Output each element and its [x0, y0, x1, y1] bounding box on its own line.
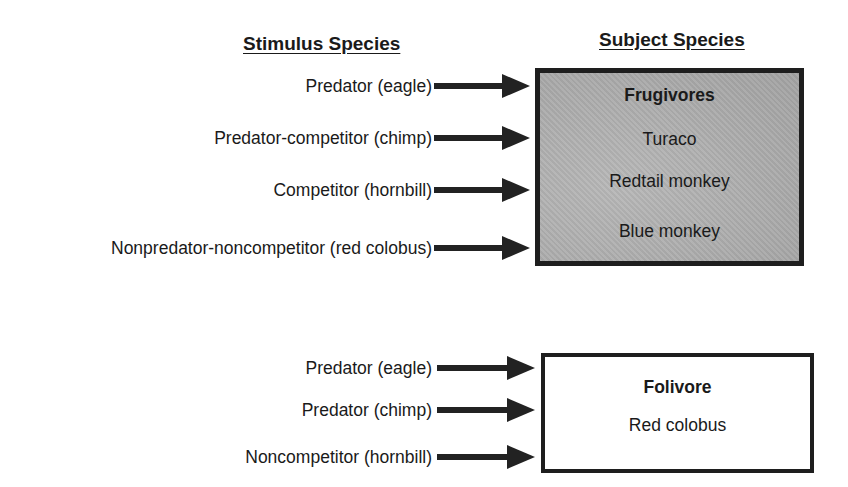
subject-species-item: Red colobus [545, 415, 810, 436]
stimulus-label: Predator (eagle) [306, 76, 432, 97]
arrow-icon [437, 445, 535, 469]
arrow-icon [434, 236, 530, 260]
stimulus-species-header: Stimulus Species [243, 33, 400, 55]
frugivores-box: Frugivores Turaco Redtail monkey Blue mo… [535, 68, 804, 266]
stimulus-label: Predator (eagle) [306, 358, 432, 379]
stimulus-label: Competitor (hornbill) [273, 180, 432, 201]
subject-species-header: Subject Species [599, 29, 745, 51]
subject-species-item: Redtail monkey [540, 171, 799, 192]
arrow-icon [434, 178, 530, 202]
arrow-icon [437, 398, 535, 422]
box-title: Frugivores [540, 85, 799, 106]
stimulus-label: Noncompetitor (hornbill) [245, 447, 432, 468]
arrow-icon [434, 74, 530, 98]
arrow-icon [434, 126, 530, 150]
subject-species-item: Turaco [540, 129, 799, 150]
arrow-icon [437, 356, 535, 380]
subject-species-item: Blue monkey [540, 221, 799, 242]
box-title: Folivore [545, 377, 810, 398]
folivore-box: Folivore Red colobus [541, 353, 814, 473]
stimulus-label: Predator-competitor (chimp) [214, 128, 432, 149]
stimulus-label: Nonpredator-noncompetitor (red colobus) [111, 238, 432, 259]
stimulus-label: Predator (chimp) [302, 400, 432, 421]
